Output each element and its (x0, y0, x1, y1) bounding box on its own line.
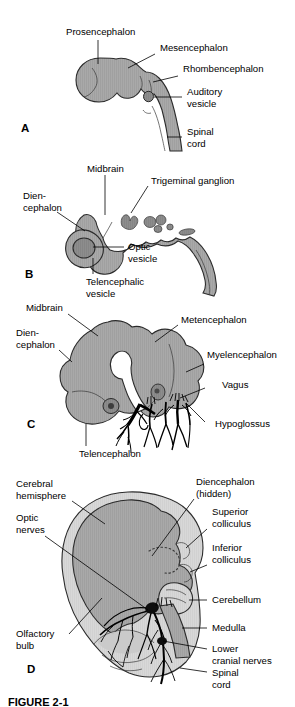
label-c-metencephalon: Metencephalon (181, 314, 247, 325)
label-b-trigeminal-ganglion: Trigeminal ganglion (151, 175, 234, 186)
label-d-cerebral-hemisphere-line1: Cerebral (16, 478, 53, 489)
label-b-telencephalic-vesicle-line1: Telencephalic (86, 276, 144, 287)
panel-d-ganglion-mass-lower (157, 637, 167, 645)
label-d-spinal-cord-line1: Spinal (212, 667, 239, 678)
label-d-olfactory-bulb-line1: Olfactory (16, 628, 55, 639)
panel-c-nerve-glossopharyngeal (165, 402, 166, 424)
label-b-midbrain: Midbrain (87, 163, 124, 174)
label-d-olfactory-bulb-line2: bulb (16, 640, 34, 651)
label-d-inferior-colliculus-line2: colliculus (212, 554, 251, 565)
panel-letter-c: C (27, 418, 35, 430)
label-d-spinal-cord-line2: cord (212, 679, 231, 690)
label-c-diencephalon-line1: Dien- (16, 327, 39, 338)
label-c-diencephalon-line2: cephalon (16, 339, 55, 350)
figure-caption: FIGURE 2-1 (8, 696, 69, 707)
label-prosencephalon: Prosencephalon (66, 26, 135, 37)
panel-c-optic-cup-center (108, 403, 114, 409)
label-d-optic-nerves-line1: Optic (16, 512, 39, 523)
label-b-diencephalon-line2: cephalon (23, 202, 62, 213)
panel-b-optic-vesicle (73, 238, 95, 258)
label-c-hypoglossus: Hypoglossus (215, 418, 270, 429)
label-d-lower-cranial-nerves-line2: cranial nerves (212, 655, 272, 666)
panel-a-auditory-vesicle (144, 91, 154, 101)
panel-letter-a: A (21, 122, 29, 134)
label-d-medulla: Medulla (212, 622, 246, 633)
label-c-vagus: Vagus (222, 379, 249, 390)
panel-c-ganglion-small-core (155, 389, 160, 394)
label-d-diencephalon-line1: Diencephalon (196, 476, 255, 487)
label-spinal-cord-line1: Spinal (187, 126, 214, 137)
panel-letter-b: B (25, 268, 33, 280)
label-d-inferior-colliculus-line1: Inferior (212, 542, 243, 553)
label-d-diencephalon-line2: (hidden) (196, 488, 231, 499)
label-c-myelencephalon: Myelencephalon (207, 349, 277, 360)
label-b-diencephalon-line1: Dien- (23, 190, 46, 201)
panel-letter-d: D (27, 663, 35, 675)
label-c-midbrain: Midbrain (26, 302, 63, 313)
label-b-optic-vesicle-line1: Optic (128, 241, 151, 252)
label-rhombencephalon: Rhombencephalon (183, 63, 264, 74)
label-d-optic-nerves-line2: nerves (16, 524, 45, 535)
label-auditory-vesicle-line2: vesicle (187, 98, 216, 109)
label-c-telencephalon: Telencephalon (79, 448, 141, 459)
label-auditory-vesicle-line1: Auditory (187, 86, 222, 97)
label-d-cerebral-hemisphere-line2: hemisphere (16, 490, 66, 501)
brain-development-figure: Prosencephalon Mesencephalon Rhombenceph… (0, 0, 295, 707)
label-b-optic-vesicle-line2: vesicle (128, 253, 157, 264)
label-mesencephalon: Mesencephalon (160, 42, 228, 53)
figure-container: Prosencephalon Mesencephalon Rhombenceph… (0, 0, 295, 707)
label-b-telencephalic-vesicle-line2: vesicle (86, 288, 115, 299)
label-d-superior-colliculus-line2: colliculus (212, 518, 251, 529)
panel-c-nerve-vagus (177, 400, 178, 424)
label-d-superior-colliculus-line1: Superior (212, 506, 249, 517)
label-d-cerebellum: Cerebellum (212, 594, 261, 605)
label-spinal-cord-line2: cord (187, 138, 206, 149)
label-d-lower-cranial-nerves-line1: Lower (212, 643, 239, 654)
